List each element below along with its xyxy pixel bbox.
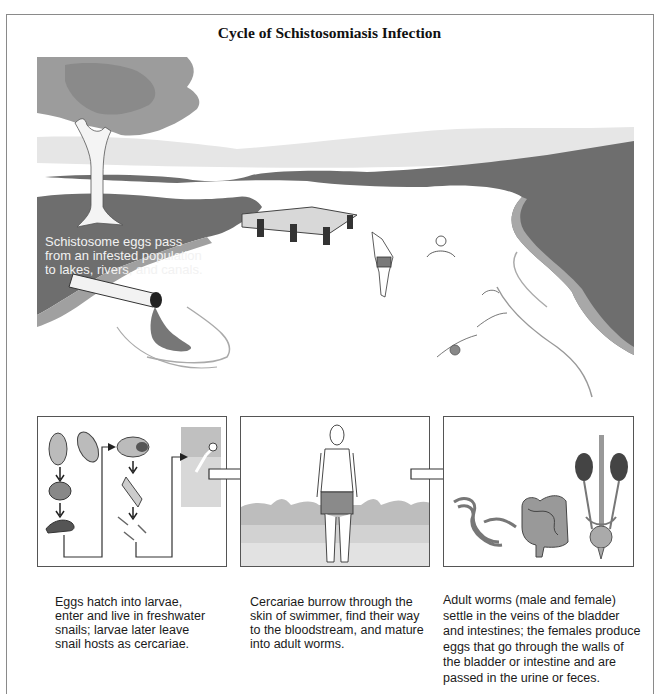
arrow-down-icon (129, 461, 137, 473)
snail-icon (46, 520, 74, 533)
landscape-illustration (37, 57, 634, 402)
caption-snail-stage: Eggs hatch into larvae, enter and live i… (55, 595, 230, 651)
arrow-down-icon (56, 503, 64, 517)
connector-line (136, 457, 186, 557)
snail-stage-illustration (38, 417, 227, 567)
arrow-right-icon (108, 443, 116, 451)
panel-snail-stage (37, 416, 227, 567)
egg-icon (49, 433, 67, 465)
human-infection-illustration (241, 417, 430, 567)
swimming-person (437, 290, 507, 357)
miracidium-icon (49, 482, 71, 500)
landscape-scene: Schistosome eggs pass from an infested p… (37, 57, 634, 402)
diving-swimmer (372, 232, 393, 297)
caption-adult-worms: Adult worms (male and female) settle in … (443, 593, 658, 686)
dock-post (290, 224, 297, 242)
kidneys-bladder-icon (575, 435, 628, 559)
redia-icon (122, 477, 142, 507)
cercaria-icon (118, 517, 146, 540)
wading-swimmer (427, 236, 455, 257)
arrow-down-icon (129, 507, 137, 519)
arrow-down-icon (56, 467, 64, 481)
discharge-flow (151, 307, 192, 351)
adult-worms-illustration (444, 417, 634, 567)
dock-post (347, 215, 353, 229)
panel-adult-worms (443, 416, 634, 567)
scene-caption: Schistosome eggs pass from an infested p… (45, 235, 203, 277)
caption-human-infection: Cercariae burrow through the skin of swi… (250, 595, 435, 651)
figure-title: Cycle of Schistosomiasis Infection (0, 24, 659, 42)
connector-line (64, 447, 114, 557)
dock-post (257, 219, 264, 237)
panel-human-infection (240, 416, 430, 567)
discharge-pipe (69, 274, 191, 351)
dock-post (323, 227, 330, 245)
intestines-icon (522, 496, 568, 557)
worm-pair-icon (454, 499, 516, 546)
egg-icon (73, 429, 103, 466)
